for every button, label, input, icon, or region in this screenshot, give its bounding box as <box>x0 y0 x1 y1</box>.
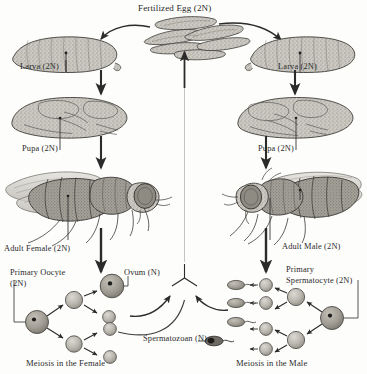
label-primary-spermatocyte: Primary Spermatocyte (2N) <box>286 265 360 286</box>
label-spermatozoan: Spermatozoan (N) <box>143 334 207 344</box>
label-larva-female: Larva (2N) <box>20 62 59 72</box>
cell-primary-spermatocyte <box>321 307 344 330</box>
cell-ovum <box>100 274 124 298</box>
cell-polar-body-first <box>66 336 82 352</box>
drosophila-life-cycle-diagram: Fertilized Egg (2N) Larva (2N) Larva (2N… <box>0 0 367 374</box>
cell-polar-body <box>104 323 117 336</box>
adult-female-illustration <box>6 172 172 246</box>
label-larva-male: Larva (2N) <box>278 62 317 72</box>
cell-secondary-oocyte <box>65 291 82 308</box>
adult-male-illustration <box>222 168 362 245</box>
spermatozoa-group <box>205 280 256 345</box>
label-adult-male: Adult Male (2N) <box>282 242 341 252</box>
spermatozoan-labeled <box>205 336 234 346</box>
cell-secondary-spermatocyte <box>287 331 304 348</box>
cell-polar-body <box>103 311 116 324</box>
diagram-artwork <box>0 0 367 374</box>
pupa-female-illustration <box>12 98 127 150</box>
cell-polar-body <box>104 351 117 364</box>
cell-spermatid <box>260 343 273 356</box>
cell-spermatid <box>260 297 273 310</box>
label-pupa-male: Pupa (2N) <box>258 144 294 154</box>
cell-primary-oocyte <box>26 311 49 334</box>
cell-secondary-spermatocyte <box>287 288 304 305</box>
pupa-male-illustration <box>238 98 353 150</box>
arrow-egg-to-female-larva <box>101 25 150 39</box>
meiosis-male-illustration <box>198 279 358 356</box>
label-adult-female: Adult Female (2N) <box>4 244 70 254</box>
caption-meiosis-female: Meiosis in the Female <box>26 358 105 368</box>
label-fertilized-egg: Fertilized Egg (2N) <box>138 3 211 13</box>
cell-spermatid <box>260 279 273 292</box>
label-pupa-female: Pupa (2N) <box>22 144 58 154</box>
cell-spermatid <box>260 323 273 336</box>
label-ovum: Ovum (N) <box>124 268 160 278</box>
caption-meiosis-male: Meiosis in the Male <box>236 358 307 368</box>
label-primary-oocyte: Primary Oocyte (2N) <box>10 268 66 289</box>
